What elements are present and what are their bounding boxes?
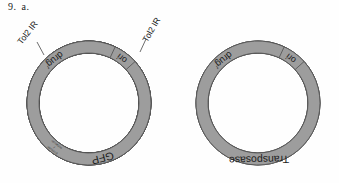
figure-part: a.: [22, 1, 30, 12]
tol2-ir-right-callout: Tol2 IR: [140, 16, 162, 44]
plasmid-layer: promoter/enhancerGFPdrugroriTol2 IRTol2 …: [15, 16, 320, 167]
donor-plasmid: promoter/enhancerGFPdrugroriTol2 IRTol2 …: [15, 16, 162, 167]
helper-plasmid: Transposasedrugrori: [196, 41, 320, 167]
figure-container: 9.a. promoter/enhancerGFPdrugroriTol2 IR…: [0, 0, 339, 183]
tol2-ir-left-callout-leader-line: [37, 42, 44, 55]
helper-plasmid-segment-transposase: [196, 41, 320, 129]
tol2-ir-left-callout: Tol2 IR: [15, 19, 39, 46]
figure-label: 9.a.: [8, 1, 34, 12]
plasmid-diagram: promoter/enhancerGFPdrugroriTol2 IRTol2 …: [0, 0, 339, 183]
figure-number: 9.: [8, 1, 17, 12]
helper-plasmid-label-transposase: Transposase: [229, 154, 290, 167]
